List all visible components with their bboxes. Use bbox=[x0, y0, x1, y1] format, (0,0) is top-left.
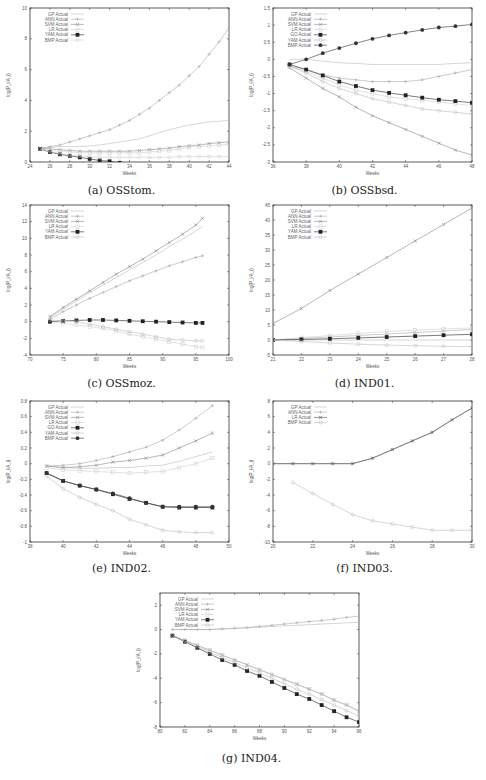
svg-text:Weeks: Weeks bbox=[253, 736, 267, 741]
svg-text:-0.4: -0.4 bbox=[19, 493, 27, 498]
chart-caption: (a) OSStom. bbox=[0, 184, 243, 197]
svg-text:Weeks: Weeks bbox=[123, 551, 137, 556]
svg-text:BMP Actual: BMP Actual bbox=[288, 235, 311, 240]
svg-text:4: 4 bbox=[24, 98, 27, 103]
svg-text:0: 0 bbox=[267, 57, 270, 62]
svg-text:46: 46 bbox=[436, 164, 442, 169]
svg-text:88: 88 bbox=[257, 729, 263, 734]
svg-text:26: 26 bbox=[390, 544, 396, 549]
svg-text:-0.5: -0.5 bbox=[262, 74, 270, 79]
chart-panel-c: 707580859095100-4-202468101214Weekslog(P… bbox=[0, 197, 243, 395]
svg-text:24: 24 bbox=[27, 164, 33, 169]
svg-text:86: 86 bbox=[232, 729, 238, 734]
svg-text:log(P_i/A_i): log(P_i/A_i) bbox=[249, 73, 254, 97]
svg-text:10: 10 bbox=[22, 6, 28, 11]
chart-plot: 36384042444648-3-2.5-2-1.5-1-0.500.511.5… bbox=[243, 0, 486, 180]
chart-caption: (f) IND03. bbox=[243, 562, 486, 575]
svg-text:0.5: 0.5 bbox=[264, 40, 271, 45]
svg-text:8: 8 bbox=[267, 399, 270, 404]
svg-text:50: 50 bbox=[226, 544, 232, 549]
svg-text:-4: -4 bbox=[266, 493, 270, 498]
chart-panel-f: 202224262830-10-8-6-4-202468Weekslog(P_i… bbox=[243, 393, 486, 580]
svg-text:8: 8 bbox=[24, 36, 27, 41]
chart-caption: (c) OSSmoz. bbox=[0, 377, 243, 390]
svg-text:14: 14 bbox=[22, 203, 28, 208]
svg-text:8: 8 bbox=[24, 253, 27, 258]
svg-text:Weeks: Weeks bbox=[366, 551, 380, 556]
chart-panel-b: 36384042444648-3-2.5-2-1.5-1-0.500.511.5… bbox=[243, 0, 486, 202]
svg-text:20: 20 bbox=[270, 544, 276, 549]
svg-text:6: 6 bbox=[267, 414, 270, 419]
svg-text:-1.5: -1.5 bbox=[262, 108, 270, 113]
svg-text:-0.8: -0.8 bbox=[19, 524, 27, 529]
svg-text:85: 85 bbox=[127, 357, 133, 362]
svg-text:-2: -2 bbox=[23, 336, 27, 341]
svg-text:28: 28 bbox=[469, 357, 475, 362]
svg-text:28: 28 bbox=[67, 164, 73, 169]
svg-text:Weeks: Weeks bbox=[123, 171, 137, 176]
svg-text:40: 40 bbox=[265, 218, 271, 223]
svg-text:-0.6: -0.6 bbox=[19, 508, 27, 513]
svg-text:Weeks: Weeks bbox=[366, 364, 380, 369]
chart-plot: 24262830323436384042440246810Weekslog(P_… bbox=[0, 0, 243, 180]
svg-text:46: 46 bbox=[160, 544, 166, 549]
svg-text:44: 44 bbox=[127, 544, 133, 549]
svg-text:94: 94 bbox=[332, 729, 338, 734]
svg-text:1: 1 bbox=[267, 23, 270, 28]
svg-text:0.8: 0.8 bbox=[21, 399, 28, 404]
svg-text:-0.2: -0.2 bbox=[19, 477, 27, 482]
svg-text:38: 38 bbox=[304, 164, 310, 169]
svg-text:44: 44 bbox=[226, 164, 232, 169]
svg-text:log(P_i/A_i): log(P_i/A_i) bbox=[6, 268, 11, 292]
svg-text:0: 0 bbox=[267, 461, 270, 466]
svg-text:-2: -2 bbox=[266, 477, 270, 482]
svg-text:2: 2 bbox=[24, 129, 27, 134]
svg-text:BMP Actual: BMP Actual bbox=[45, 235, 68, 240]
svg-text:30: 30 bbox=[87, 164, 93, 169]
svg-text:38: 38 bbox=[27, 544, 33, 549]
svg-text:15: 15 bbox=[265, 293, 271, 298]
svg-text:4: 4 bbox=[267, 430, 270, 435]
svg-text:36: 36 bbox=[147, 164, 153, 169]
svg-text:0: 0 bbox=[24, 461, 27, 466]
svg-text:21: 21 bbox=[270, 357, 276, 362]
svg-text:-2.5: -2.5 bbox=[262, 142, 270, 147]
svg-text:0: 0 bbox=[154, 627, 157, 632]
svg-text:5: 5 bbox=[267, 323, 270, 328]
svg-text:25: 25 bbox=[384, 357, 390, 362]
svg-text:0: 0 bbox=[24, 319, 27, 324]
svg-text:BMP Actual: BMP Actual bbox=[45, 436, 68, 441]
svg-text:42: 42 bbox=[370, 164, 376, 169]
svg-text:-1: -1 bbox=[23, 540, 27, 545]
svg-text:30: 30 bbox=[265, 248, 271, 253]
svg-text:-8: -8 bbox=[153, 725, 157, 730]
svg-text:BMP Actual: BMP Actual bbox=[45, 38, 68, 43]
svg-text:log(P_i/A_i): log(P_i/A_i) bbox=[249, 459, 254, 483]
svg-text:0.2: 0.2 bbox=[21, 446, 28, 451]
svg-text:84: 84 bbox=[207, 729, 213, 734]
svg-text:log(P_i/A_i): log(P_i/A_i) bbox=[6, 459, 11, 483]
svg-text:-1: -1 bbox=[266, 91, 270, 96]
svg-text:45: 45 bbox=[265, 203, 271, 208]
svg-text:0: 0 bbox=[267, 338, 270, 343]
svg-text:-10: -10 bbox=[263, 540, 270, 545]
svg-text:38: 38 bbox=[167, 164, 173, 169]
svg-text:40: 40 bbox=[61, 544, 67, 549]
svg-text:BMP Actual: BMP Actual bbox=[288, 43, 311, 48]
svg-text:-6: -6 bbox=[266, 508, 270, 513]
svg-text:23: 23 bbox=[327, 357, 333, 362]
svg-text:6: 6 bbox=[24, 67, 27, 72]
svg-text:BMP Actual: BMP Actual bbox=[175, 623, 198, 628]
svg-text:12: 12 bbox=[22, 219, 28, 224]
svg-text:10: 10 bbox=[22, 236, 28, 241]
svg-text:-5: -5 bbox=[266, 353, 270, 358]
svg-text:26: 26 bbox=[413, 357, 419, 362]
svg-text:82: 82 bbox=[182, 729, 188, 734]
chart-plot: 38404244464850-1-0.8-0.6-0.4-0.200.20.40… bbox=[0, 393, 243, 560]
svg-text:10: 10 bbox=[265, 308, 271, 313]
svg-text:80: 80 bbox=[157, 729, 163, 734]
svg-text:log(P_i/A_i): log(P_i/A_i) bbox=[136, 648, 141, 672]
svg-text:90: 90 bbox=[282, 729, 288, 734]
svg-text:-4: -4 bbox=[153, 676, 157, 681]
chart-panel-d: 2122232425262728-5051015202530354045Week… bbox=[243, 197, 486, 395]
